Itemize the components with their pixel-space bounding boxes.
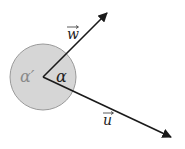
angle-outer-label: α′ [20,67,35,86]
svg-text:w: w [67,26,79,42]
svg-text:u: u [103,112,112,128]
vector-angle-diagram: w u α′ α [0,0,185,149]
vector-w-label: w [67,26,79,43]
vector-u-label: u [103,112,114,129]
angle-inner-label: α [56,67,67,86]
vector-u-arrow [43,77,171,137]
